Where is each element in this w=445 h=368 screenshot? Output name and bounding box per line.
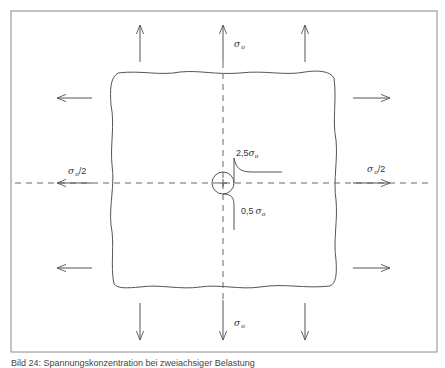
- figure-frame: [11, 11, 437, 352]
- min-stress-curve: [223, 194, 234, 230]
- max-stress-curve: [234, 158, 282, 183]
- min-stress-label: 0,5σo: [241, 206, 266, 217]
- left-stress-label: σo/2: [68, 166, 86, 177]
- right-stress-label: σo/2: [367, 164, 385, 175]
- top-stress-label: σo: [234, 39, 245, 50]
- max-stress-label: 2,5σo: [236, 148, 259, 159]
- plate-outline: [111, 71, 337, 288]
- bottom-stress-label: σo: [234, 318, 245, 329]
- figure-caption: Bild 24: Spannungskonzentration bei zwei…: [11, 358, 255, 368]
